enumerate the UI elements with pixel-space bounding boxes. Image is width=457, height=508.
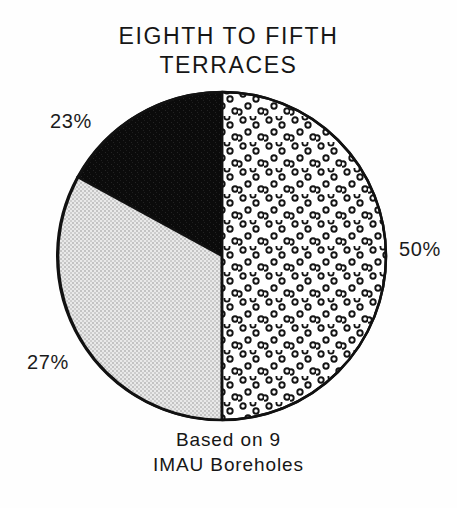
pie-chart-figure: EIGHTH TO FIFTH TERRACES <box>0 0 457 508</box>
chart-title: EIGHTH TO FIFTH TERRACES <box>0 22 457 81</box>
chart-caption: Based on 9 IMAU Boreholes <box>0 428 457 477</box>
slice-label-50: 50% <box>399 238 441 261</box>
pie-graphic <box>56 90 388 422</box>
chart-title-line-2: TERRACES <box>0 51 457 80</box>
pie-svg <box>56 90 388 422</box>
chart-caption-line-1: Based on 9 <box>0 428 457 453</box>
slice-label-23: 23% <box>50 110 92 133</box>
slice-label-27: 27% <box>27 351 69 374</box>
chart-title-line-1: EIGHTH TO FIFTH <box>0 22 457 51</box>
chart-caption-line-2: IMAU Boreholes <box>0 453 457 478</box>
pie-slice-50 <box>222 92 386 420</box>
